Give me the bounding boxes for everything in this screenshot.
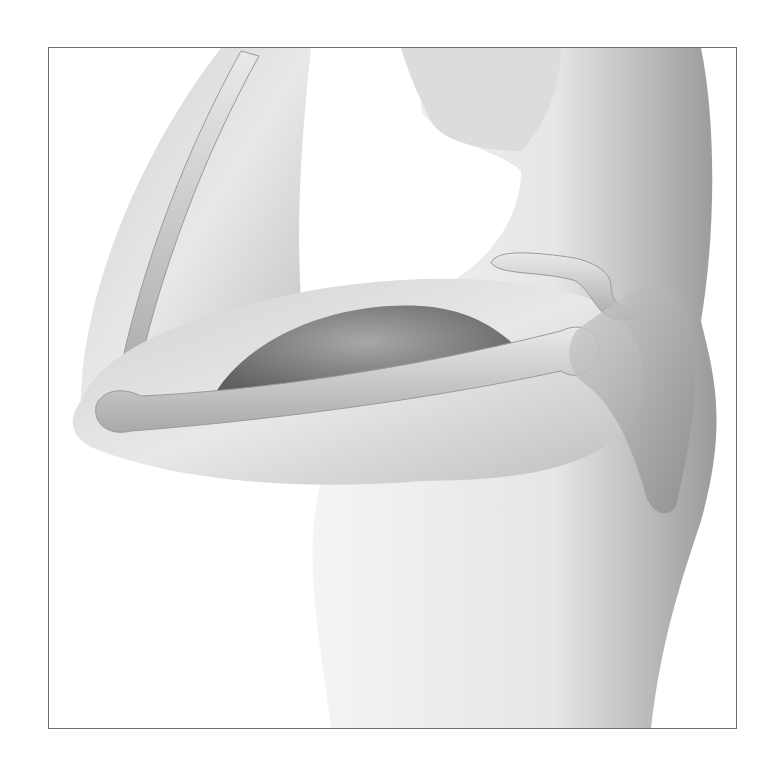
illustration-frame: [48, 47, 737, 729]
anatomy-illustration: [49, 48, 736, 728]
